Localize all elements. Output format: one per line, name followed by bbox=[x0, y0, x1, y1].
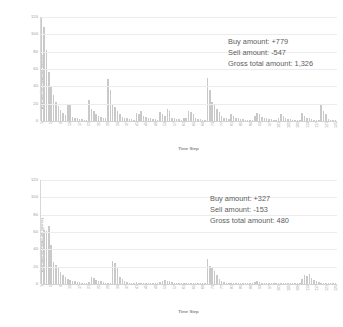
y-tick-label: 0 bbox=[22, 282, 38, 286]
x-tick-label: 17 bbox=[79, 122, 83, 126]
x-tick-label: 21 bbox=[88, 285, 92, 289]
y-tick-label: 120 bbox=[22, 15, 38, 19]
x-tick-label: 77 bbox=[221, 285, 225, 289]
y-tick-label: 80 bbox=[22, 50, 38, 54]
bar bbox=[138, 114, 139, 121]
x-tick-label: 125 bbox=[335, 285, 339, 291]
y-tick-label: 60 bbox=[22, 230, 38, 234]
bar bbox=[60, 272, 61, 284]
bar bbox=[62, 275, 63, 284]
x-tick-label: 73 bbox=[212, 122, 216, 126]
chart-top: Buy and Sell amount (gross) 020406080100… bbox=[0, 0, 343, 163]
x-tick-label: 45 bbox=[145, 285, 149, 289]
annotation-sell: Sell amount: -153 bbox=[210, 204, 289, 215]
bar bbox=[46, 231, 47, 284]
x-tick-label: 89 bbox=[250, 122, 254, 126]
x-axis-title: Time Step bbox=[40, 146, 337, 151]
bar bbox=[216, 275, 217, 284]
bar bbox=[95, 114, 96, 121]
x-tick-label: 65 bbox=[193, 285, 197, 289]
x-tick-label: 93 bbox=[259, 122, 263, 126]
gridline bbox=[41, 267, 337, 268]
y-axis-ticks: 020406080100120 bbox=[22, 17, 38, 121]
bar bbox=[53, 95, 54, 121]
y-tick-label: 20 bbox=[22, 265, 38, 269]
x-tick-label: 41 bbox=[136, 285, 140, 289]
x-tick-label: 65 bbox=[193, 122, 197, 126]
y-tick-label: 20 bbox=[22, 102, 38, 106]
bar bbox=[50, 245, 51, 284]
x-axis-ticks: 1591317212529333741454953576165697377818… bbox=[40, 122, 337, 144]
bar bbox=[325, 114, 326, 121]
bar bbox=[167, 109, 168, 121]
x-tick-label: 113 bbox=[307, 285, 311, 291]
x-tick-label: 69 bbox=[202, 122, 206, 126]
x-tick-label: 101 bbox=[278, 122, 282, 128]
x-tick-label: 121 bbox=[326, 122, 330, 128]
x-axis-title: Time Step bbox=[40, 309, 337, 314]
bar bbox=[91, 109, 92, 121]
gridline bbox=[41, 249, 337, 250]
bar bbox=[110, 90, 111, 121]
bar bbox=[55, 102, 56, 121]
x-tick-label: 85 bbox=[240, 285, 244, 289]
x-tick-label: 25 bbox=[98, 285, 102, 289]
x-tick-label: 33 bbox=[117, 122, 121, 126]
bar bbox=[216, 109, 217, 121]
x-tick-label: 49 bbox=[155, 122, 159, 126]
x-tick-label: 105 bbox=[288, 285, 292, 291]
bar bbox=[117, 111, 118, 121]
y-tick-label: 40 bbox=[22, 247, 38, 251]
x-tick-label: 81 bbox=[231, 122, 235, 126]
bar bbox=[48, 226, 49, 284]
x-tick-label: 93 bbox=[259, 285, 263, 289]
annotation-sell: Sell amount: -547 bbox=[228, 47, 313, 58]
bar bbox=[58, 106, 59, 121]
x-tick-label: 21 bbox=[88, 122, 92, 126]
bar bbox=[112, 104, 113, 121]
bar bbox=[309, 274, 310, 284]
x-tick-label: 121 bbox=[326, 285, 330, 291]
x-tick-label: 5 bbox=[50, 122, 54, 124]
bar bbox=[43, 27, 44, 121]
bar bbox=[67, 104, 68, 121]
annotation-gross: Gross total amount: 1,326 bbox=[228, 58, 313, 69]
bar bbox=[259, 114, 260, 121]
x-tick-label: 61 bbox=[183, 122, 187, 126]
y-tick-label: 80 bbox=[22, 213, 38, 217]
bar bbox=[169, 111, 170, 121]
y-tick-label: 0 bbox=[22, 119, 38, 123]
x-tick-label: 89 bbox=[250, 285, 254, 289]
x-tick-label: 1 bbox=[41, 285, 45, 287]
x-tick-label: 41 bbox=[136, 122, 140, 126]
y-tick-label: 60 bbox=[22, 67, 38, 71]
x-tick-label: 57 bbox=[174, 122, 178, 126]
x-tick-label: 81 bbox=[231, 285, 235, 289]
plot-area bbox=[40, 180, 337, 284]
bar bbox=[136, 113, 137, 121]
bar bbox=[207, 78, 208, 121]
x-tick-label: 105 bbox=[288, 122, 292, 128]
bar bbox=[219, 112, 220, 121]
x-tick-label: 109 bbox=[297, 285, 301, 291]
bar bbox=[256, 113, 257, 121]
bar bbox=[162, 114, 163, 121]
x-tick-label: 1 bbox=[41, 122, 45, 124]
x-tick-label: 13 bbox=[69, 285, 73, 289]
annotation-block: Buy amount: +327 Sell amount: -153 Gross… bbox=[210, 193, 289, 227]
bar bbox=[209, 90, 210, 121]
chart-bottom: Buy and Sell amount (gross) 020406080100… bbox=[0, 163, 343, 327]
y-tick-label: 100 bbox=[22, 195, 38, 199]
x-tick-label: 109 bbox=[297, 122, 301, 128]
x-tick-label: 85 bbox=[240, 122, 244, 126]
gridline bbox=[41, 215, 337, 216]
x-tick-label: 73 bbox=[212, 285, 216, 289]
bar bbox=[43, 230, 44, 284]
x-tick-label: 17 bbox=[79, 285, 83, 289]
x-axis-ticks: 1591317212529333741454953576165697377818… bbox=[40, 285, 337, 307]
x-tick-label: 113 bbox=[307, 122, 311, 128]
bar bbox=[48, 72, 49, 121]
bar bbox=[65, 277, 66, 284]
bar bbox=[211, 102, 212, 121]
y-tick-label: 100 bbox=[22, 32, 38, 36]
